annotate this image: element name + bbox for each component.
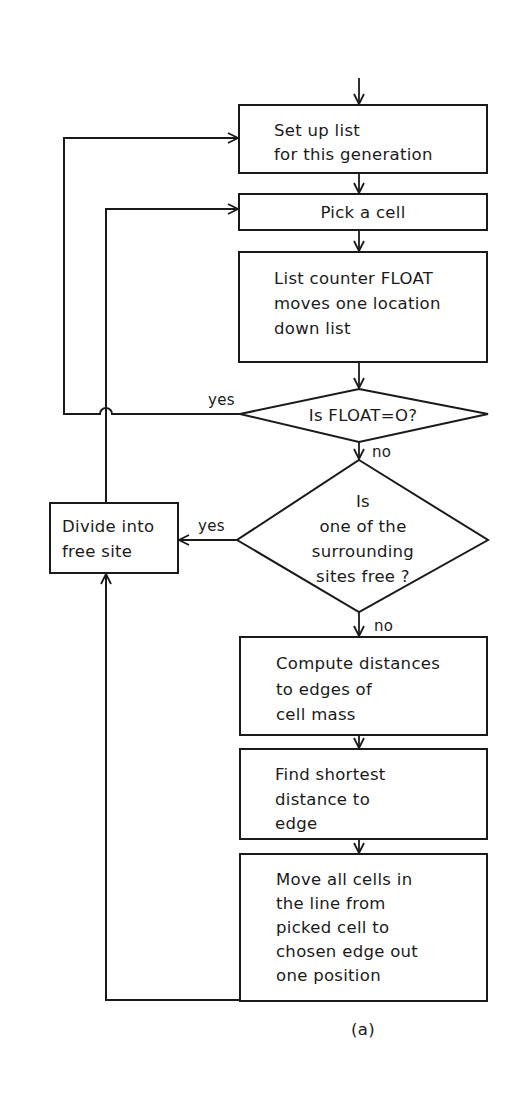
label-float-no: no	[372, 443, 391, 461]
node-move-cells: Move all cells in the line from picked c…	[240, 854, 487, 1001]
node-shortest-line-2: distance to	[275, 790, 370, 809]
node-list-counter: List counter FLOAT moves one location do…	[239, 252, 487, 362]
flowchart: Set up list for this generation Pick a c…	[0, 0, 516, 1101]
node-shortest-line-3: edge	[275, 814, 317, 833]
node-setup-line-1: Set up list	[274, 121, 360, 140]
node-pick-line-1: Pick a cell	[320, 203, 405, 222]
loop-move-to-divide	[106, 574, 240, 1000]
node-move-line-1: Move all cells in	[276, 870, 412, 889]
node-setup-line-2: for this generation	[274, 145, 433, 164]
node-move-line-5: one position	[276, 966, 381, 985]
node-pick-cell: Pick a cell	[239, 194, 487, 230]
decision-float-text: Is FLOAT=O?	[309, 406, 417, 425]
decision-site-free: Is one of the surrounding sites free ?	[237, 460, 488, 612]
node-compute-distances: Compute distances to edges of cell mass	[240, 637, 487, 735]
label-free-no: no	[374, 617, 393, 635]
label-float-yes: yes	[208, 391, 235, 409]
node-compute-line-1: Compute distances	[276, 654, 440, 673]
node-divide-line-1: Divide into	[62, 517, 154, 536]
loop-divide-to-pick	[106, 209, 238, 503]
node-counter-line-2: moves one location	[274, 294, 441, 313]
node-counter-line-3: down list	[274, 319, 351, 338]
node-compute-line-2: to edges of	[276, 680, 373, 699]
decision-free-line-1: Is	[356, 492, 370, 511]
node-find-shortest: Find shortest distance to edge	[240, 749, 487, 839]
node-move-line-4: chosen edge out	[276, 942, 418, 961]
node-setup-list: Set up list for this generation	[239, 105, 487, 173]
decision-free-line-4: sites free ?	[316, 567, 410, 586]
node-compute-line-3: cell mass	[276, 705, 356, 724]
node-move-line-2: the line from	[276, 894, 386, 913]
label-free-yes: yes	[198, 517, 225, 535]
decision-float-zero: Is FLOAT=O?	[240, 389, 488, 442]
decision-free-line-2: one of the	[319, 517, 406, 536]
node-shortest-line-1: Find shortest	[275, 765, 386, 784]
loop-float-yes-to-setup	[64, 138, 240, 414]
node-divide-line-2: free site	[62, 542, 132, 561]
decision-free-line-3: surrounding	[312, 542, 414, 561]
node-move-line-3: picked cell to	[276, 918, 389, 937]
figure-caption: (a)	[351, 1020, 375, 1039]
node-divide: Divide into free site	[50, 503, 178, 573]
node-counter-line-1: List counter FLOAT	[274, 269, 434, 288]
